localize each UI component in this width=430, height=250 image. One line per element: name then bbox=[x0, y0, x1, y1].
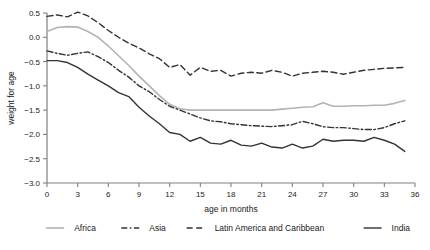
series-line-latin-america-and-caribbean bbox=[47, 12, 405, 76]
y-tick-label: −2.5 bbox=[24, 155, 40, 164]
y-tick-label: −1.5 bbox=[24, 106, 40, 115]
x-tick-label: 33 bbox=[380, 190, 389, 199]
x-tick-label: 27 bbox=[319, 190, 328, 199]
legend-label-africa: Africa bbox=[74, 223, 96, 233]
line-chart: 0.50.0−0.5−1.0−1.5−2.0−2.5−3.0 036912151… bbox=[0, 0, 430, 250]
x-tick-label: 6 bbox=[106, 190, 111, 199]
x-tick-label: 0 bbox=[45, 190, 50, 199]
x-tick-label: 12 bbox=[165, 190, 174, 199]
x-axis: 0369121518212427303336 bbox=[45, 183, 420, 199]
chart-figure: 0.50.0−0.5−1.0−1.5−2.0−2.5−3.0 036912151… bbox=[0, 0, 430, 250]
legend-label-latin-america-and-caribbean: Latin America and Caribbean bbox=[215, 223, 325, 233]
y-tick-label: −0.5 bbox=[24, 58, 40, 67]
y-tick-label: −2.0 bbox=[24, 130, 40, 139]
x-tick-label: 21 bbox=[257, 190, 266, 199]
y-axis: 0.50.0−0.5−1.0−1.5−2.0−2.5−3.0 bbox=[24, 9, 47, 188]
x-tick-label: 9 bbox=[137, 190, 142, 199]
axis-titles: age in monthsweight for age bbox=[6, 71, 258, 214]
x-axis-title: age in months bbox=[204, 204, 257, 214]
y-tick-label: 0.5 bbox=[29, 9, 41, 18]
y-axis-title: weight for age bbox=[6, 71, 16, 126]
legend-label-india: India bbox=[392, 223, 411, 233]
chart-legend: AfricaAsiaLatin America and CaribbeanInd… bbox=[46, 223, 410, 233]
series-layer bbox=[47, 12, 405, 151]
x-tick-label: 36 bbox=[411, 190, 420, 199]
x-tick-label: 18 bbox=[227, 190, 236, 199]
series-line-africa bbox=[47, 27, 405, 111]
series-line-asia bbox=[47, 51, 405, 130]
legend-label-asia: Asia bbox=[149, 223, 166, 233]
x-tick-label: 15 bbox=[196, 190, 205, 199]
y-tick-label: 0.0 bbox=[29, 33, 41, 42]
y-tick-label: −1.0 bbox=[24, 82, 40, 91]
x-tick-label: 30 bbox=[349, 190, 358, 199]
y-tick-label: −3.0 bbox=[24, 179, 40, 188]
x-tick-label: 24 bbox=[288, 190, 297, 199]
x-tick-label: 3 bbox=[75, 190, 80, 199]
